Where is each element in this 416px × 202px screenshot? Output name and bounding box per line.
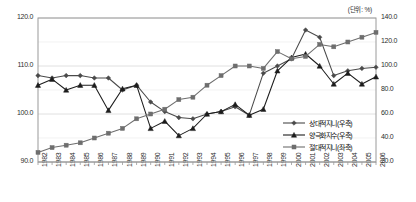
legend-item-label: 절대적지니(좌축) [309,142,352,152]
chart-container: (단위: %) 90.0100.0110.0120.0 20.040.060.0… [0,0,416,202]
legend-item-label: 상대적지니(우축) [309,118,352,128]
legend-swatch-square-icon [283,142,305,152]
legend-item: 절대적지니(좌축) [283,141,352,153]
legend-item-label: 양극화지수(우축) [309,130,352,140]
legend-item: 상대적지니(우축) [283,117,352,129]
plot-area [0,0,416,202]
chart-legend: 상대적지니(우축)양극화지수(우축)절대적지니(좌축) [283,117,352,153]
legend-swatch-diamond-icon [283,118,305,128]
legend-item: 양극화지수(우축) [283,129,352,141]
legend-swatch-triangle-icon [283,130,305,140]
